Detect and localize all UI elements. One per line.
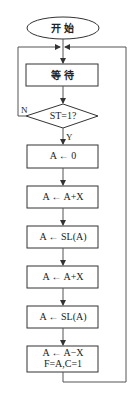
step-label-3: A ← SL(A)	[39, 231, 86, 243]
step-node-1: A ← 0	[27, 145, 98, 168]
step-label-2: A ← A+X	[42, 191, 84, 202]
no-label: N	[21, 105, 28, 115]
step-node-3: A ← SL(A)	[27, 226, 98, 248]
decision-node: ST=1?	[26, 104, 98, 128]
start-label: 开始	[51, 22, 77, 34]
loop-return-line	[63, 47, 126, 382]
step-node-2: A ← A+X	[27, 186, 98, 208]
step-node-5: A ← SL(A)	[27, 306, 98, 328]
step-node-6: A ← A−X F=A,C=1	[27, 346, 98, 372]
step-node-4: A ← A+X	[27, 266, 98, 288]
step-label-6-line1: A ← A−X	[42, 347, 84, 358]
decision-label: ST=1?	[50, 110, 77, 121]
start-node: 开始	[27, 17, 99, 39]
wait-node: 等待	[26, 64, 98, 86]
step-label-6-line2: F=A,C=1	[44, 358, 82, 369]
flowchart: 开始 等待 ST=1? N Y A ← 0 A ← A+X A ← SL(A) …	[0, 0, 139, 403]
yes-label: Y	[66, 132, 73, 142]
step-label-5: A ← SL(A)	[39, 311, 86, 323]
wait-label: 等待	[51, 69, 77, 81]
step-label-1: A ← 0	[50, 150, 77, 161]
step-label-4: A ← A+X	[42, 271, 84, 282]
